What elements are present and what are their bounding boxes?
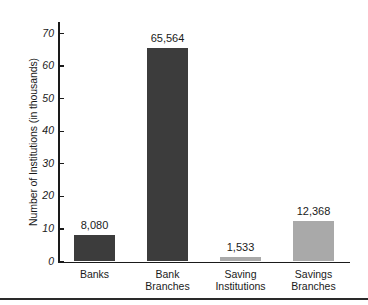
y-tick-mark-70: [58, 33, 64, 34]
y-tick-label-20: 20: [28, 190, 54, 201]
y-tick-mark-60: [58, 65, 64, 66]
bar-value-label-savings-branches: 12,368: [274, 206, 354, 217]
bar-banks: [74, 235, 115, 261]
y-tick-label-10: 10: [28, 223, 54, 234]
bar-value-label-banks: 8,080: [55, 220, 135, 231]
y-tick-mark-40: [58, 131, 64, 132]
y-tick-mark-50: [58, 98, 64, 99]
category-label-savings-branches: SavingsBranches: [269, 268, 359, 293]
y-tick-label-60: 60: [28, 60, 54, 71]
y-tick-mark-0: [58, 261, 64, 262]
bar-savings-branches: [293, 221, 334, 261]
y-tick-mark-20: [58, 196, 64, 197]
y-tick-label-30: 30: [28, 158, 54, 169]
y-tick-label-0: 0: [28, 256, 54, 267]
bar-bank-branches: [147, 48, 188, 262]
category-label-line1: Savings: [269, 268, 359, 281]
y-tick-mark-30: [58, 163, 64, 164]
bar-saving-institutions: [220, 257, 261, 262]
y-tick-label-40: 40: [28, 125, 54, 136]
y-tick-label-50: 50: [28, 93, 54, 104]
bar-chart-figure: Number of Institutions (in thousands) 01…: [0, 0, 368, 305]
bottom-divider-rule: [0, 298, 368, 300]
bar-value-label-bank-branches: 65,564: [128, 33, 208, 44]
y-tick-label-70: 70: [28, 28, 54, 39]
x-axis-line: [58, 262, 350, 264]
category-label-line2: Branches: [269, 280, 359, 293]
bar-value-label-saving-institutions: 1,533: [201, 242, 281, 253]
